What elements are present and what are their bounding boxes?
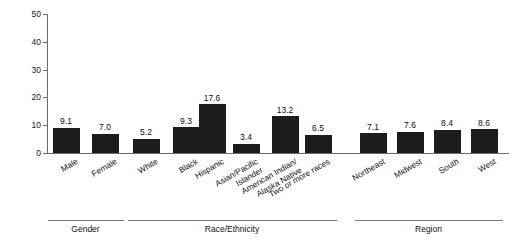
bar-slot: 7.1 <box>360 14 387 153</box>
bar-value-label: 9.3 <box>180 117 192 126</box>
bar: 13.2 <box>272 116 299 153</box>
x-category-label-line: White <box>137 157 160 176</box>
bar-slot: 5.2 <box>133 14 160 153</box>
bar-value-label: 9.1 <box>60 117 72 126</box>
bar-value-label: 6.5 <box>312 124 324 133</box>
x-category-label: West <box>477 157 498 175</box>
y-tick-label: 20 <box>32 93 41 102</box>
bar: 5.2 <box>133 139 160 153</box>
y-tick-mark <box>43 125 47 126</box>
x-category-label: Northeast <box>351 157 387 183</box>
bar-value-label: 7.6 <box>404 121 416 130</box>
x-category-label: Male <box>59 157 79 174</box>
bar-slot: 17.6 <box>199 14 226 153</box>
bar: 9.3 <box>173 127 200 153</box>
bar-value-label: 7.1 <box>367 123 379 132</box>
bar-slot: 9.3 <box>173 14 200 153</box>
bar-value-label: 17.6 <box>204 94 221 103</box>
bar-slot: 7.6 <box>397 14 424 153</box>
group-label: Gender <box>48 224 124 235</box>
x-category-label-line: Female <box>90 157 119 179</box>
bar-slot: 13.2 <box>272 14 299 153</box>
bar-slot: 7.0 <box>92 14 119 153</box>
x-category-label: White <box>137 157 160 176</box>
x-category-label-line: South <box>437 157 461 176</box>
group-bracket-line <box>355 220 503 221</box>
group-label: Region <box>355 224 503 235</box>
plot-area: 01020304050 Percent 9.17.05.29.317.63.41… <box>47 14 509 153</box>
y-tick-label: 50 <box>32 10 41 19</box>
bar: 9.1 <box>53 128 80 153</box>
bar-value-label: 13.2 <box>277 106 294 115</box>
bar: 6.5 <box>305 135 332 153</box>
bar: 7.6 <box>397 132 424 153</box>
bar: 7.1 <box>360 133 387 153</box>
bar: 7.0 <box>92 134 119 153</box>
y-tick-label: 0 <box>36 149 41 158</box>
bar: 3.4 <box>233 144 260 153</box>
y-tick-mark <box>43 14 47 15</box>
y-tick-mark <box>43 97 47 98</box>
y-tick-label: 40 <box>32 38 41 47</box>
bar-value-label: 8.6 <box>478 119 490 128</box>
y-tick-mark <box>43 70 47 71</box>
bar-slot: 6.5 <box>305 14 332 153</box>
y-tick-mark <box>43 153 47 154</box>
x-category-label: South <box>437 157 461 176</box>
bar-value-label: 3.4 <box>240 133 252 142</box>
y-tick-mark <box>43 42 47 43</box>
bar-value-label: 8.4 <box>441 119 453 128</box>
y-tick-label: 10 <box>32 121 41 130</box>
group-bracket-line <box>128 220 337 221</box>
x-category-label-line: West <box>477 157 498 175</box>
x-category-label-line: Male <box>59 157 79 174</box>
bar-value-label: 7.0 <box>99 123 111 132</box>
x-category-label: Female <box>90 157 119 179</box>
x-category-label-line: Midwest <box>393 157 424 180</box>
y-axis-title: Percent <box>11 0 23 14</box>
x-category-label: Midwest <box>393 157 424 180</box>
bar: 8.4 <box>434 130 461 153</box>
bar: 8.6 <box>471 129 498 153</box>
bar-value-label: 5.2 <box>140 128 152 137</box>
group-bracket-line <box>48 220 124 221</box>
bar: 17.6 <box>199 104 226 153</box>
x-category-label-line: Northeast <box>351 157 387 183</box>
bar-slot: 8.6 <box>471 14 498 153</box>
x-axis-line <box>47 153 509 154</box>
bar-slot: 9.1 <box>53 14 80 153</box>
group-label: Race/Ethnicity <box>128 224 337 235</box>
y-axis-line <box>47 14 48 153</box>
bar-slot: 8.4 <box>434 14 461 153</box>
bar-slot: 3.4 <box>233 14 260 153</box>
y-tick-label: 30 <box>32 65 41 74</box>
chart-figure: 01020304050 Percent 9.17.05.29.317.63.41… <box>0 0 523 252</box>
